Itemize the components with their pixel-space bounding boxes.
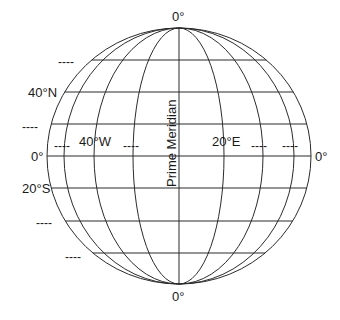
blank-lat-60s: ----	[65, 251, 81, 263]
bottom-pole-label: 0°	[172, 290, 184, 303]
longitude-20e-label: 20°E	[212, 135, 240, 148]
longitude-40w-label: 40°W	[79, 135, 111, 148]
blank-lon-60w: ----	[54, 140, 70, 152]
latitude-40n-label: 40°N	[28, 86, 57, 99]
blank-lat-60n: ----	[58, 56, 74, 68]
top-pole-label: 0°	[172, 10, 184, 23]
equator-right-label: 0°	[315, 150, 327, 163]
prime-meridian-label: Prime Meridian	[165, 100, 178, 187]
blank-lat-40s: ----	[36, 217, 52, 229]
latitude-20s-label: 20°S	[22, 182, 50, 195]
blank-lon-40e: ----	[251, 140, 267, 152]
blank-lon-20w: ----	[123, 140, 139, 152]
blank-lon-60e: ----	[282, 140, 298, 152]
globe-grid	[47, 28, 311, 284]
equator-left-label: 0°	[31, 150, 43, 163]
blank-lat-20n: ----	[22, 121, 38, 133]
